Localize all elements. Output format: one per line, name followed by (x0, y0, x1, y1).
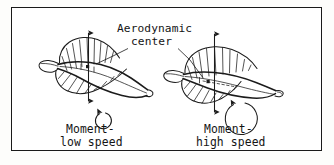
low-speed-upper-pressure-envelope (59, 37, 119, 70)
high-speed-chord-line (185, 77, 275, 95)
aerodynamic-center-leader-right (178, 49, 204, 79)
aerodynamic-center-leader-left (96, 49, 128, 65)
figure-root: Moment- low speed (0, 0, 334, 165)
aerodynamic-center-dot (86, 65, 89, 68)
high-speed-caption-line2: high speed (196, 135, 266, 149)
high-speed-upper-pressure-envelope (185, 47, 257, 80)
panel-high-speed: Moment- high speed (164, 34, 283, 149)
low-speed-lower-pressure-envelope (56, 69, 127, 94)
aerodynamic-center-annotation: Aerodynamic center (96, 22, 204, 79)
aerodynamic-center-dot (207, 80, 210, 83)
high-speed-caption-line1: Moment- (204, 122, 253, 136)
panel-low-speed: Moment- low speed (39, 33, 153, 149)
low-speed-caption-line1: Moment- (66, 122, 115, 136)
low-speed-caption-line2: low speed (60, 135, 123, 149)
aerodynamic-center-label-line1: Aerodynamic (117, 22, 192, 35)
high-speed-lower-pressure-envelope (182, 81, 241, 104)
aerodynamic-center-label-line2: center (131, 35, 172, 48)
aerodynamic-center-diagram: Moment- low speed (0, 0, 334, 165)
